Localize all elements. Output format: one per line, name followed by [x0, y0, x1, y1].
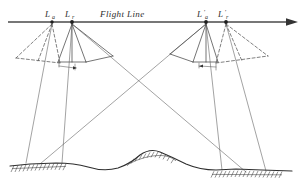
ray-La-to-ground-left — [26, 24, 52, 163]
ray-Lap-to-ground-right — [206, 24, 222, 170]
Lrp-cone-edge-left — [216, 24, 226, 63]
La-principal-axis — [38, 24, 52, 61]
right-format-bracket — [199, 63, 216, 70]
ray-Lap-to-ground-left — [40, 24, 206, 164]
svg-text:r: r — [226, 14, 229, 20]
Lrp-cone-edge-right — [226, 24, 268, 56]
Lr-wide-plane — [86, 56, 113, 62]
ray-Lr-to-ground-left — [62, 24, 72, 163]
station-dot-La-prime — [204, 20, 208, 24]
right-principal-rays — [40, 24, 266, 171]
svg-text:a: a — [52, 14, 55, 20]
svg-text:L: L — [217, 9, 223, 19]
station-dot-Lr-prime — [224, 20, 228, 24]
svg-text:L: L — [44, 9, 50, 19]
Lap-wide-cone — [170, 24, 206, 62]
station-label-La-prime: L ' a — [196, 8, 208, 21]
svg-text:L: L — [196, 9, 202, 19]
Lap-wide-plane — [170, 54, 193, 62]
flight-line-label-group: Flight Line — [99, 9, 145, 19]
Lap-cone-edge-right — [206, 24, 218, 62]
La-dashed-cone — [16, 24, 60, 63]
station-label-Lr-prime: L ' r — [217, 8, 229, 21]
terrain-group — [10, 151, 292, 178]
Lrp-principal-axis — [226, 24, 242, 61]
right-station-labels: L ' a L ' r — [196, 8, 229, 21]
left-camera-group — [16, 24, 246, 172]
ray-Lrp-to-ground-right — [226, 24, 266, 171]
figure-canvas: Flight Line L a L r L ' a L ' r — [0, 0, 304, 190]
Lap-solid-cone — [193, 24, 218, 62]
Lr-solid-cone — [58, 24, 86, 62]
svg-text:L: L — [64, 9, 70, 19]
right-camera-group — [40, 24, 268, 171]
left-station-labels: L a L r — [44, 9, 75, 20]
Lrp-dashed-cone — [216, 24, 268, 63]
station-label-La: L a — [44, 9, 55, 20]
flight-line-label: Flight Line — [99, 9, 145, 19]
terrain-hatch-right — [211, 171, 282, 178]
station-dot-Lr — [70, 20, 74, 24]
left-bracket-span — [59, 66, 75, 68]
right-bracket-arrow-icon — [199, 65, 203, 68]
svg-text:a: a — [205, 14, 208, 20]
svg-text:r: r — [72, 14, 75, 20]
Lr-wide-cone — [72, 24, 113, 62]
Lrp-film-plane — [216, 56, 268, 63]
arrow-right-icon — [286, 18, 298, 26]
photogrammetry-diagram: Flight Line L a L r L ' a L ' r — [0, 0, 304, 190]
La-cone-edge-right — [52, 24, 60, 63]
left-format-bracket — [59, 63, 77, 70]
station-label-Lr: L r — [64, 9, 75, 20]
station-dot-La — [50, 20, 53, 23]
